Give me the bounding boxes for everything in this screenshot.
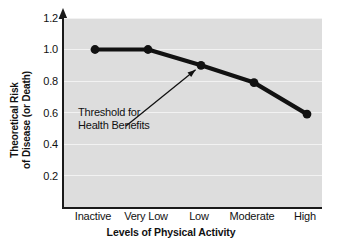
chart-figure: Theoretical Risk of Disease (or Death) 1…	[0, 0, 342, 247]
data-point-moderate	[250, 78, 259, 87]
x-tick-label-low: Low	[189, 210, 209, 223]
y-tick-label: 0.6	[12, 108, 58, 119]
plot-area: Threshold for Health Benefits	[62, 18, 322, 209]
x-tick-label-high: High	[294, 210, 316, 223]
y-tick-label: 0.8	[12, 76, 58, 87]
plot-inner: Threshold for Health Benefits	[64, 18, 322, 207]
threshold-annotation: Threshold for Health Benefits	[78, 106, 200, 132]
data-point-low	[197, 61, 206, 70]
data-point-inactive	[91, 45, 100, 54]
risk-line-series	[95, 50, 307, 115]
x-axis-tick-labels: Inactive Very Low Low Moderate High	[62, 210, 322, 224]
y-axis-tick-labels: 1.2 1.0 0.8 0.6 0.4 0.2	[12, 0, 58, 247]
x-tick-label-very-low: Very Low	[124, 210, 168, 223]
data-point-high	[303, 110, 312, 119]
x-tick-label-moderate: Moderate	[230, 210, 275, 223]
x-axis-title: Levels of Physical Activity	[0, 226, 342, 238]
y-tick-label: 1.2	[12, 13, 58, 24]
y-tick-label: 0.4	[12, 139, 58, 150]
data-point-very-low	[144, 45, 153, 54]
y-tick-label: 1.0	[12, 44, 58, 55]
threshold-annotation-line-1: Threshold for	[78, 106, 200, 119]
y-tick-label: 0.2	[12, 171, 58, 182]
threshold-annotation-line-2: Health Benefits	[78, 119, 200, 132]
x-tick-label-inactive: Inactive	[75, 210, 111, 223]
